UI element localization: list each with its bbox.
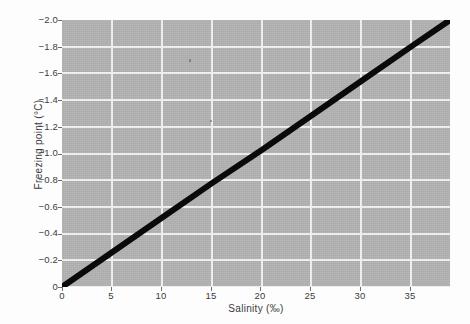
x-axis-title: Salinity (‰) (62, 303, 450, 314)
y-axis-title: Freezing point (°C) (33, 45, 44, 245)
plot-area (62, 20, 450, 287)
x-tick-label: 35 (390, 290, 430, 301)
x-tick-label: 30 (340, 290, 380, 301)
x-tick-label: 25 (290, 290, 330, 301)
x-tick-label: 20 (240, 290, 280, 301)
figure: −2.0 −1.8 −1.6 −1.4 −1.2 −1.0 −0.8 −0.6 … (0, 0, 470, 324)
y-tick-label: −0.2 (18, 254, 58, 265)
x-tick-label: 5 (91, 290, 131, 301)
freezing-point-line-series (62, 20, 450, 287)
x-tick-label: 0 (42, 290, 82, 301)
y-tick-label: −2.0 (18, 14, 58, 25)
x-tick-label: 10 (141, 290, 181, 301)
x-tick-label: 15 (191, 290, 231, 301)
